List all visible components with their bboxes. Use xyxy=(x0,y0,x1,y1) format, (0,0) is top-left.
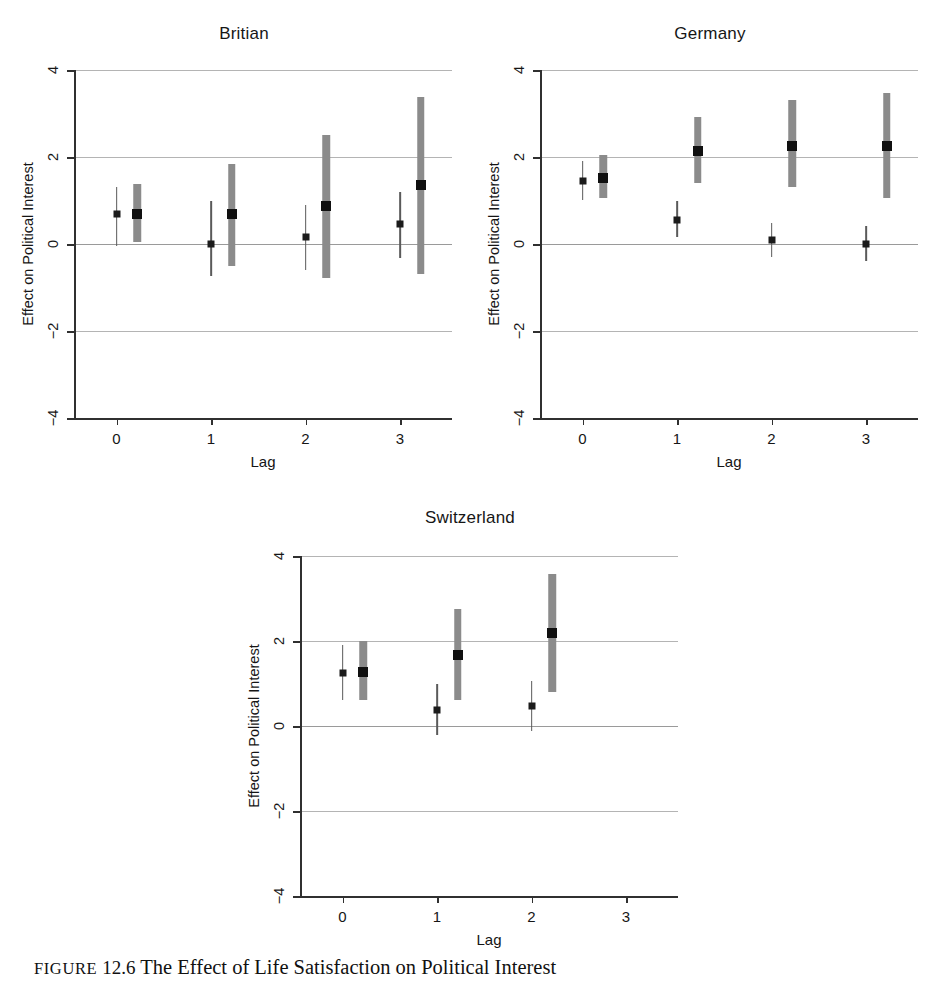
panel-title: Britian xyxy=(14,24,474,44)
y-tick-label: 4 xyxy=(271,552,287,560)
x-tick-label: 2 xyxy=(527,908,535,925)
y-axis-label: Effect on Political Interest xyxy=(246,644,262,807)
estimate-point-marker xyxy=(693,146,703,156)
y-tick-label: 2 xyxy=(271,637,287,645)
y-tick-label: 0 xyxy=(271,722,287,730)
y-tick-4 xyxy=(293,556,300,558)
x-tick-0 xyxy=(343,896,345,903)
gridline-y--2 xyxy=(300,811,678,812)
y-tick-label: 0 xyxy=(511,240,527,248)
panel-germany: Germany 420−2−40123Effect on Political I… xyxy=(480,24,940,484)
gridline-y-4 xyxy=(300,556,678,557)
x-tick-label: 1 xyxy=(207,430,215,447)
gridline-y-0 xyxy=(540,244,918,245)
y-tick--4 xyxy=(293,896,300,898)
x-axis-line xyxy=(540,418,918,420)
x-tick-0 xyxy=(583,418,585,425)
x-tick-3 xyxy=(866,418,868,425)
y-tick-2 xyxy=(67,157,74,159)
gridline-y-4 xyxy=(74,70,452,71)
estimate-point-marker xyxy=(397,221,404,228)
gridline-y-0 xyxy=(300,726,678,727)
estimate-point-marker xyxy=(132,209,142,219)
panel-title: Switzerland xyxy=(240,508,700,528)
plot-area: 420−2−40123Effect on Political InterestL… xyxy=(74,70,452,418)
y-tick-label: −2 xyxy=(271,803,287,820)
figure-caption: FIGURE 12.6 The Effect of Life Satisfact… xyxy=(34,956,556,979)
y-tick-label: 0 xyxy=(45,240,61,248)
x-axis-label: Lag xyxy=(476,931,501,948)
estimate-point-marker xyxy=(113,211,120,218)
x-tick-label: 2 xyxy=(767,430,775,447)
panel-switzerland: Switzerland 420−2−40123Effect on Politic… xyxy=(240,508,700,958)
x-tick-3 xyxy=(400,418,402,425)
y-tick--2 xyxy=(67,331,74,333)
estimate-point-marker xyxy=(674,217,681,224)
x-tick-label: 2 xyxy=(301,430,309,447)
x-axis-label: Lag xyxy=(716,453,741,470)
plot-area: 420−2−40123Effect on Political InterestL… xyxy=(540,70,918,418)
gridline-y-2 xyxy=(74,157,452,158)
estimate-point-marker xyxy=(863,241,870,248)
x-tick-1 xyxy=(437,896,439,903)
x-tick-label: 1 xyxy=(673,430,681,447)
estimate-point-marker xyxy=(547,628,557,638)
y-tick-label: −4 xyxy=(511,410,527,427)
estimate-point-marker xyxy=(882,141,892,151)
x-tick-1 xyxy=(211,418,213,425)
estimate-point-marker xyxy=(453,650,463,660)
estimate-point-marker xyxy=(339,669,346,676)
x-tick-label: 0 xyxy=(578,430,586,447)
estimate-point-marker xyxy=(416,180,426,190)
x-tick-label: 3 xyxy=(396,430,404,447)
y-axis-line xyxy=(74,70,76,418)
y-axis-line xyxy=(540,70,542,418)
estimate-point-marker xyxy=(302,233,309,240)
estimate-point-marker xyxy=(321,201,331,211)
x-axis-line xyxy=(74,418,452,420)
gridline-y--2 xyxy=(74,331,452,332)
y-tick-label: −4 xyxy=(45,410,61,427)
gridline-y-4 xyxy=(540,70,918,71)
caption-label: FIGURE xyxy=(34,959,97,978)
y-tick-2 xyxy=(293,641,300,643)
estimate-point-marker xyxy=(787,141,797,151)
y-tick-0 xyxy=(67,244,74,246)
estimate-point-marker xyxy=(208,241,215,248)
y-axis-label: Effect on Political Interest xyxy=(20,162,36,325)
x-tick-2 xyxy=(306,418,308,425)
x-tick-label: 3 xyxy=(862,430,870,447)
x-tick-3 xyxy=(626,896,628,903)
panel-britian: Britian 420−2−40123Effect on Political I… xyxy=(14,24,474,484)
estimate-point-marker xyxy=(358,667,368,677)
panel-title: Germany xyxy=(480,24,940,44)
x-tick-2 xyxy=(772,418,774,425)
x-tick-label: 0 xyxy=(338,908,346,925)
figure-page: Britian 420−2−40123Effect on Political I… xyxy=(0,0,946,991)
y-tick-0 xyxy=(533,244,540,246)
gridline-y-0 xyxy=(74,244,452,245)
y-tick-0 xyxy=(293,726,300,728)
estimate-point-marker xyxy=(579,177,586,184)
confidence-interval-bar xyxy=(210,201,212,276)
gridline-y-2 xyxy=(300,641,678,642)
y-axis-label: Effect on Political Interest xyxy=(486,162,502,325)
y-tick--2 xyxy=(533,331,540,333)
y-tick--2 xyxy=(293,811,300,813)
y-tick--4 xyxy=(67,418,74,420)
y-tick-label: −2 xyxy=(511,323,527,340)
caption-number: 12.6 xyxy=(102,957,135,978)
x-axis-label: Lag xyxy=(250,453,275,470)
y-axis-line xyxy=(300,556,302,896)
estimate-point-marker xyxy=(434,706,441,713)
y-tick--4 xyxy=(533,418,540,420)
x-tick-label: 3 xyxy=(622,908,630,925)
caption-text: The Effect of Life Satisfaction on Polit… xyxy=(140,956,556,978)
y-tick-4 xyxy=(67,70,74,72)
x-axis-line xyxy=(300,896,678,898)
y-tick-label: −2 xyxy=(45,323,61,340)
x-tick-label: 0 xyxy=(112,430,120,447)
x-tick-1 xyxy=(677,418,679,425)
x-tick-2 xyxy=(532,896,534,903)
estimate-point-marker xyxy=(528,702,535,709)
